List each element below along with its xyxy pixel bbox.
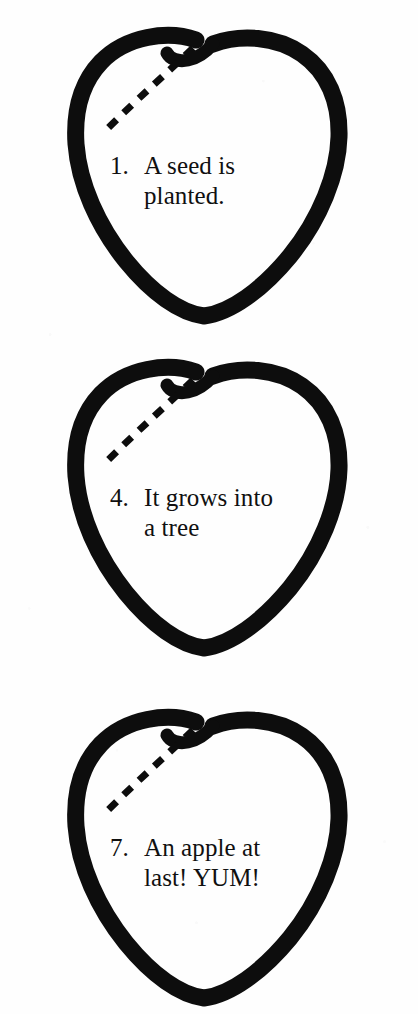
apple-caption: 1.A seed isplanted. [110, 122, 350, 210]
step-text-line-2: last! YUM! [144, 864, 260, 891]
step-text-line-2: a tree [144, 514, 199, 541]
apple-caption: 7.An apple atlast! YUM! [110, 804, 360, 892]
apple-step-1: 1.A seed isplanted. [0, 22, 418, 332]
apple-caption: 4.It grows intoa tree [110, 454, 360, 542]
step-number: 7. [110, 833, 144, 862]
step-text-line-1: An apple at [144, 834, 260, 861]
step-number: 1. [110, 151, 144, 180]
step-text-line-1: It grows into [144, 484, 273, 511]
step-text-line-1: A seed is [144, 152, 235, 179]
apple-step-7: 7.An apple atlast! YUM! [0, 704, 418, 1014]
step-text: An apple atlast! YUM! [144, 833, 260, 892]
step-text: It grows intoa tree [144, 483, 273, 542]
step-text-line-2: planted. [144, 182, 225, 209]
apple-step-4: 4.It grows intoa tree [0, 354, 418, 664]
step-number: 4. [110, 483, 144, 512]
step-text: A seed isplanted. [144, 151, 235, 210]
